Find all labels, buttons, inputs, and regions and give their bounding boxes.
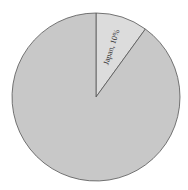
pie-slices: [12, 13, 180, 181]
pie-slice-other-1: [12, 13, 180, 181]
pie-chart: Japan, 10%: [0, 0, 188, 190]
